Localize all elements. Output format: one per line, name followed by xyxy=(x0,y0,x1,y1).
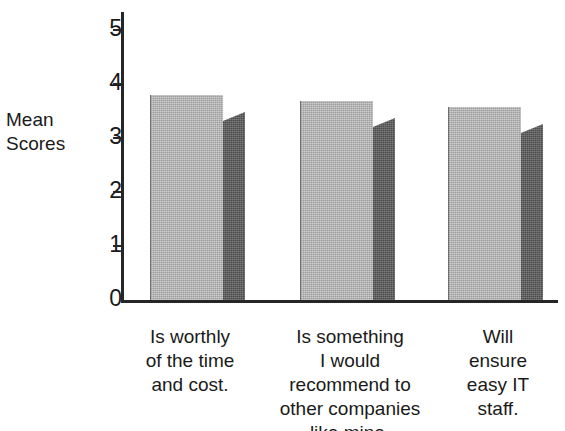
y-tick-label-0: 0 xyxy=(96,287,122,310)
y-axis-line xyxy=(121,12,124,302)
category-label-3-line-3: easy IT xyxy=(438,373,558,397)
category-label-2-line-5: like mine. xyxy=(252,421,448,431)
category-label-2-line-4: other companies xyxy=(252,397,448,421)
category-label-3-line-1: Will xyxy=(438,325,558,349)
bar-chart: · Mean Scores 5 4 3 2 1 0 xyxy=(0,0,565,431)
category-label-3: Will ensure easy IT staff. xyxy=(438,325,558,421)
bar-2-side-face xyxy=(373,118,395,300)
category-label-1-line-2: of the time xyxy=(110,349,270,373)
category-label-2-line-1: Is something xyxy=(252,325,448,349)
category-label-3-line-2: ensure xyxy=(438,349,558,373)
bar-3-side-face xyxy=(521,124,543,300)
y-axis-title-line-1: Mean xyxy=(6,108,86,132)
category-label-1-line-3: and cost. xyxy=(110,373,270,397)
bar-1-front-face xyxy=(150,95,223,300)
category-label-1: Is worthly of the time and cost. xyxy=(110,325,270,397)
category-label-2-line-2: I would xyxy=(252,349,448,373)
cropped-title-fragment: · xyxy=(300,0,340,4)
category-label-2-line-3: recommend to xyxy=(252,373,448,397)
x-axis-line xyxy=(121,300,558,303)
bar-3-front-face xyxy=(448,107,521,300)
category-label-2: Is something I would recommend to other … xyxy=(252,325,448,431)
category-label-1-line-1: Is worthly xyxy=(110,325,270,349)
y-axis-title: Mean Scores xyxy=(6,108,86,156)
bar-1-side-face xyxy=(223,112,245,300)
category-label-3-line-4: staff. xyxy=(438,397,558,421)
y-axis-title-line-2: Scores xyxy=(6,132,86,156)
bar-2-front-face xyxy=(300,101,373,300)
